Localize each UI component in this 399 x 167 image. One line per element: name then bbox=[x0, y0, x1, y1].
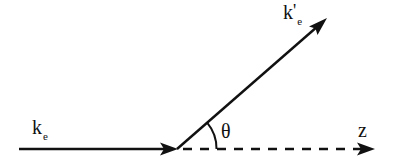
angle-theta-label: θ bbox=[221, 121, 231, 141]
scattered-vector-arrow bbox=[177, 18, 327, 149]
angle-arc bbox=[207, 123, 216, 149]
z-axis-label: z bbox=[358, 120, 367, 140]
incident-vector-label: ke bbox=[32, 117, 48, 137]
incident-vector-arrow bbox=[19, 143, 178, 156]
scattering-diagram: ke k'e θ z bbox=[0, 0, 399, 167]
z-axis-arrow bbox=[183, 143, 375, 156]
diagram-canvas bbox=[0, 0, 399, 167]
scattered-vector-label: k'e bbox=[283, 2, 302, 22]
